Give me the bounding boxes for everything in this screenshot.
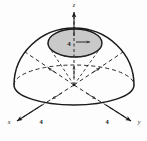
y-axis-label: y xyxy=(137,119,141,125)
radial-tick-lower-right xyxy=(86,93,96,99)
y-axis-arrow xyxy=(106,105,131,121)
cap-radius-label: 4 xyxy=(67,40,71,48)
hemisphere-diagram: z x y 4 4 4 xyxy=(0,0,147,141)
x-axis-arrow xyxy=(17,105,42,121)
radial-tick-lower-left xyxy=(52,93,62,99)
figure-canvas: z x y 4 4 4 xyxy=(0,0,147,141)
radial-tick-right xyxy=(92,68,100,73)
origin-point xyxy=(73,84,76,87)
radial-tick-left xyxy=(48,68,56,73)
y-radius-label: 4 xyxy=(105,118,109,125)
x-radius-label: 4 xyxy=(39,118,43,125)
z-axis-label: z xyxy=(72,2,76,8)
x-axis-label: x xyxy=(7,119,11,125)
